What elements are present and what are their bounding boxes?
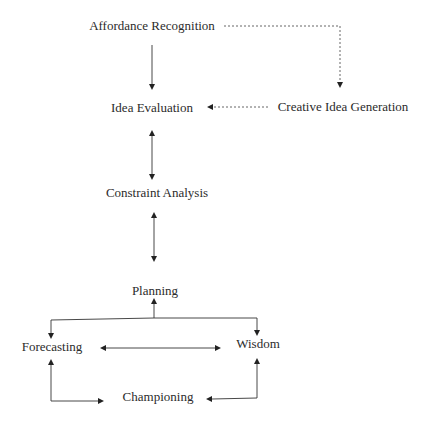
arrowhead-up-icon	[151, 298, 157, 304]
edge-creative-to-idea-evaluation	[207, 104, 268, 110]
arrowhead-up-icon	[151, 212, 157, 218]
arrowhead-down-icon	[151, 256, 157, 262]
arrowhead-down-icon	[337, 82, 343, 88]
edge-planning-branch	[48, 298, 260, 339]
edge-forecasting-wisdom	[100, 345, 221, 351]
arrowhead-up-icon	[149, 130, 155, 136]
edge-affordance-to-idea-evaluation	[149, 45, 155, 90]
arrowhead-left-icon	[207, 104, 213, 110]
arrowhead-up-icon	[48, 359, 54, 365]
arrowhead-down-icon	[149, 174, 155, 180]
edge-forecasting-championing	[48, 359, 104, 404]
arrowhead-right-icon	[215, 345, 221, 351]
edge-constraint-analysis-planning	[151, 212, 157, 262]
edge-affordance-to-creative	[224, 26, 343, 88]
node-wisdom: Wisdom	[236, 336, 280, 351]
node-idea-evaluation: Idea Evaluation	[111, 100, 193, 115]
node-creative-idea-generation: Creative Idea Generation	[278, 99, 409, 114]
arrowhead-down-icon	[149, 84, 155, 90]
node-planning: Planning	[132, 283, 179, 298]
node-forecasting: Forecasting	[22, 339, 83, 354]
node-affordance-recognition: Affordance Recognition	[89, 18, 215, 33]
edge-wisdom-championing	[206, 358, 260, 402]
node-championing: Championing	[123, 389, 194, 404]
arrowhead-up-icon	[254, 358, 260, 364]
arrowhead-right-icon	[98, 398, 104, 404]
arrowhead-left-icon	[206, 396, 212, 402]
diagram-canvas: Affordance Recognition Idea Evaluation C…	[0, 0, 432, 424]
node-constraint-analysis: Constraint Analysis	[106, 185, 208, 200]
arrowhead-left-icon	[100, 345, 106, 351]
edge-idea-evaluation-constraint-analysis	[149, 130, 155, 180]
